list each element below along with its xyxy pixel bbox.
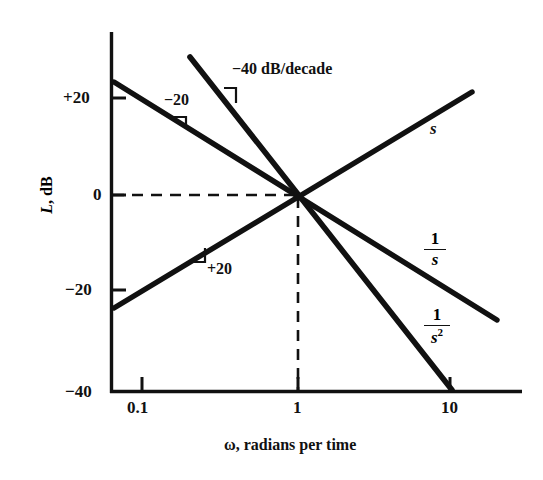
curve-label-s: s: [430, 120, 437, 137]
y-tick-label-0: 0: [93, 186, 102, 203]
x-tick-label-1: 1: [293, 399, 302, 416]
denominator-symbol: s: [431, 328, 438, 347]
annotation-minus-20: −20: [164, 92, 189, 108]
curve-label-1-over-s-squared: 1 s2: [424, 306, 450, 346]
y-axis-symbol: L: [38, 204, 55, 214]
x-axis-units: , radians per time: [236, 436, 357, 453]
annotation-plus-20: +20: [207, 261, 232, 277]
x-tick-label-10: 10: [441, 399, 458, 416]
y-axis-units: , dB: [38, 176, 55, 204]
x-axis-title: ω, radians per time: [224, 437, 356, 453]
y-tick-label-plus20: +20: [63, 89, 90, 106]
curve-label-1-over-s-denominator: s: [424, 251, 446, 269]
curve-label-1-over-s: 1 s: [424, 230, 446, 269]
y-tick-label-minus40: −40: [65, 383, 92, 400]
curve-label-1-over-s-squared-numerator: 1: [424, 306, 450, 324]
denominator-exponent: 2: [438, 326, 444, 338]
x-tick-label-0.1: 0.1: [127, 399, 148, 416]
annotation-minus-40-db-per-decade: −40 dB/decade: [232, 61, 332, 77]
y-axis-title: L, dB: [12, 160, 82, 230]
y-tick-label-minus20: −20: [65, 281, 92, 298]
x-axis-symbol-omega: ω: [224, 436, 236, 453]
curve-label-1-over-s-squared-denominator: s2: [424, 327, 450, 347]
curve-label-1-over-s-numerator: 1: [424, 230, 446, 248]
